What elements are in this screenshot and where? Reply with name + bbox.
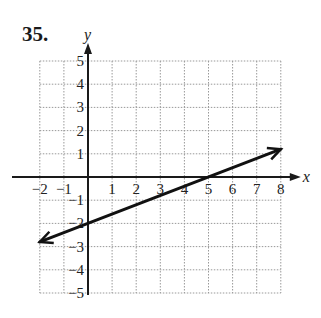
x-tick-label: 5	[205, 181, 213, 197]
y-tick-label: −1	[68, 192, 84, 208]
y-tick-label: −3	[68, 239, 84, 255]
y-tick-label: −5	[68, 285, 84, 301]
x-axis-label: x	[302, 168, 310, 185]
y-tick-label: −4	[68, 262, 84, 278]
x-tick-label: 1	[108, 181, 116, 197]
x-tick-label: −2	[32, 181, 48, 197]
x-axis-arrow-icon	[290, 173, 301, 181]
x-tick-label: 6	[229, 181, 237, 197]
y-axis-label: y	[82, 26, 92, 44]
y-tick-label: 3	[77, 99, 85, 115]
x-tick-label: 7	[253, 181, 261, 197]
y-tick-label: 2	[77, 123, 85, 139]
y-axis-arrow-icon	[84, 43, 92, 54]
axes: xy	[12, 26, 310, 295]
x-tick-label: 4	[181, 181, 189, 197]
y-tick-label: 1	[77, 146, 85, 162]
y-tick-label: 4	[77, 76, 85, 92]
x-tick-label: 8	[277, 181, 285, 197]
coordinate-graph: xy −2−11234567854321−1−2−3−4−5	[0, 0, 321, 318]
y-tick-label: 5	[77, 53, 85, 69]
x-tick-label: 2	[132, 181, 140, 197]
